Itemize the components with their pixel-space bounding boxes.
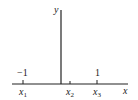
x1-subscript: 1: [23, 91, 27, 99]
tick-label-x3: x3: [93, 87, 101, 99]
tick-label-x1: x1: [19, 87, 27, 99]
x-axis-label: x: [123, 86, 127, 96]
axes-graphic: [0, 0, 138, 100]
tick-value-one: 1: [95, 68, 100, 78]
y-axis-label: y: [54, 5, 58, 15]
x2-subscript: 2: [70, 91, 74, 99]
x3-subscript: 3: [97, 91, 101, 99]
tick-label-x2: x2: [66, 87, 74, 99]
tick-value-minus-one: −1: [17, 68, 28, 78]
